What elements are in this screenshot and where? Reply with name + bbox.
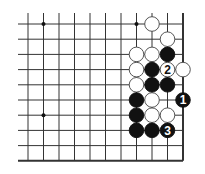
black-stone xyxy=(145,78,160,93)
white-stone xyxy=(129,62,144,77)
white-stone xyxy=(129,47,144,62)
white-stone xyxy=(160,32,175,47)
white-stone-move-2: 2 xyxy=(160,62,175,77)
white-stone xyxy=(129,78,144,93)
move-number-label: 1 xyxy=(180,93,187,107)
star-point xyxy=(135,22,139,26)
stones-layer: 213 xyxy=(129,17,190,138)
white-stone xyxy=(145,93,160,108)
white-stone xyxy=(145,17,160,32)
go-board-diagram: 213 xyxy=(0,0,205,174)
black-stone-move-3: 3 xyxy=(160,123,175,138)
black-stone xyxy=(129,93,144,108)
black-stone xyxy=(129,108,144,123)
star-point xyxy=(42,22,46,26)
black-stone xyxy=(160,47,175,62)
black-stone xyxy=(145,62,160,77)
black-stone xyxy=(129,123,144,138)
black-stone-move-1: 1 xyxy=(176,93,191,108)
star-point xyxy=(42,113,46,117)
move-number-label: 2 xyxy=(164,63,171,77)
black-stone xyxy=(145,123,160,138)
white-stone xyxy=(176,62,191,77)
black-stone xyxy=(160,78,175,93)
move-number-label: 3 xyxy=(164,124,171,138)
white-stone xyxy=(145,108,160,123)
white-stone xyxy=(160,108,175,123)
white-stone xyxy=(145,47,160,62)
